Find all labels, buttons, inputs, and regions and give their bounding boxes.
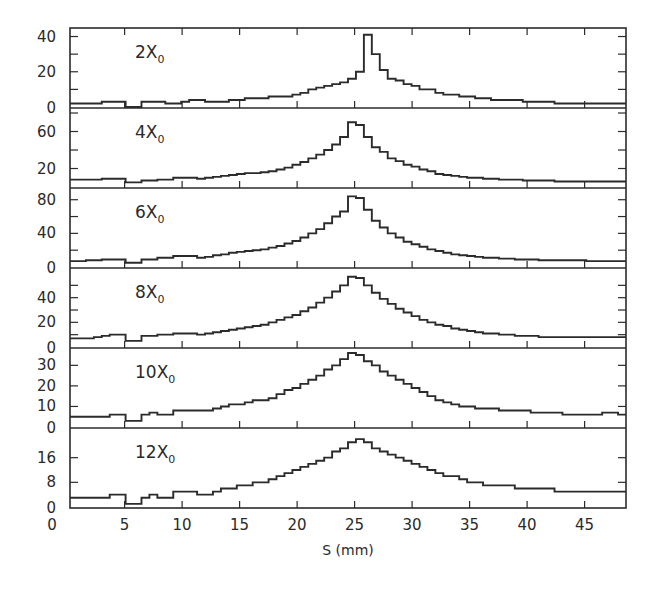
y-tick-label: 16 xyxy=(37,449,56,467)
y-tick-label: 30 xyxy=(37,356,56,374)
x-tick-label: 40 xyxy=(518,516,537,534)
y-tick-label: 0 xyxy=(46,259,56,277)
panel-10x0: 010203010X0 xyxy=(37,348,626,437)
y-tick-label: 10 xyxy=(37,397,56,415)
y-tick-label: 20 xyxy=(37,377,56,395)
y-tick-label: 0 xyxy=(46,339,56,357)
y-tick-label: 0 xyxy=(46,99,56,117)
x-tick-label: 25 xyxy=(345,516,364,534)
panel-label: 6X0 xyxy=(135,202,164,226)
panel-label: 12X0 xyxy=(135,442,175,466)
panel-label: 10X0 xyxy=(135,362,175,386)
panel-label: 8X0 xyxy=(135,282,164,306)
x-tick-label: 45 xyxy=(575,516,594,534)
x-tick-label: 15 xyxy=(230,516,249,534)
x-tick-label: 0 xyxy=(47,516,57,534)
x-tick-label: 5 xyxy=(120,516,130,534)
x-tick-label: 30 xyxy=(403,516,422,534)
x-tick-label: 35 xyxy=(460,516,479,534)
panels-group: 020402X020604X0040806X0020408X0010203010… xyxy=(37,28,626,517)
y-tick-label: 80 xyxy=(37,191,56,209)
y-tick-label: 0 xyxy=(46,499,56,517)
panel-12x0: 081612X0 xyxy=(37,428,626,517)
x-axis-title: S (mm) xyxy=(322,542,374,558)
panel-label: 4X0 xyxy=(135,122,164,146)
x-axis: 051015202530354045 xyxy=(47,516,594,534)
panel-6x0: 040806X0 xyxy=(37,188,626,277)
x-tick-label: 10 xyxy=(173,516,192,534)
y-tick-label: 20 xyxy=(37,63,56,81)
histogram-stack-chart: 020402X020604X0040806X0020408X0010203010… xyxy=(0,0,662,591)
y-tick-label: 40 xyxy=(37,224,56,242)
panel-2x0: 020402X0 xyxy=(37,28,626,117)
y-tick-label: 40 xyxy=(37,289,56,307)
y-tick-label: 20 xyxy=(37,160,56,178)
y-tick-label: 20 xyxy=(37,313,56,331)
y-tick-label: 8 xyxy=(46,473,56,491)
x-tick-label: 20 xyxy=(288,516,307,534)
y-tick-label: 0 xyxy=(46,419,56,437)
y-tick-label: 40 xyxy=(37,28,56,46)
panel-4x0: 20604X0 xyxy=(37,108,626,188)
panel-8x0: 020408X0 xyxy=(37,268,626,357)
y-tick-label: 60 xyxy=(37,123,56,141)
panel-label: 2X0 xyxy=(135,42,164,66)
